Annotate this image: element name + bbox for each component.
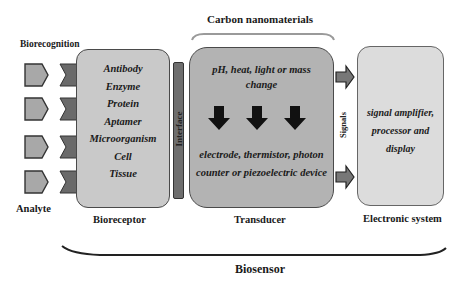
transducer-box: pH, heat, light or mass change electrode… [189, 47, 334, 208]
bioreceptor-item-enzyme: Enzyme [77, 78, 169, 96]
down-arrow-icon [284, 106, 306, 130]
down-arrow-icon [208, 106, 230, 130]
transducer-arrows [190, 106, 333, 132]
top-brace [192, 34, 334, 40]
bioreceptor-list: Antibody Enzyme Protein Aptamer Microorg… [77, 60, 169, 183]
signals-label: Signals [338, 100, 348, 150]
analyte-label: Analyte [16, 203, 51, 214]
bioreceptor-item-tissue: Tissue [77, 165, 169, 183]
transducer-bottom-text: electrode, thermistor, photon counter or… [196, 146, 327, 182]
bioreceptor-item-cell: Cell [77, 148, 169, 166]
electronic-system-text: signal amplifier, processor and display [362, 104, 439, 158]
bioreceptor-box: Antibody Enzyme Protein Aptamer Microorg… [76, 49, 170, 208]
bioreceptor-item-aptamer: Aptamer [77, 113, 169, 131]
analyte-shape-4 [25, 171, 48, 193]
analyte-shapes [25, 64, 48, 193]
bioreceptor-item-protein: Protein [77, 95, 169, 113]
analyte-shape-3 [25, 136, 48, 158]
electronic-system-label: Electronic system [363, 213, 442, 224]
analyte-shape-1 [25, 64, 48, 86]
bottom-brace [62, 246, 446, 255]
down-arrow-icon [246, 106, 268, 130]
signal-arrow-top [336, 66, 354, 88]
bioreceptor-item-microorganism: Microorganism [77, 130, 169, 148]
analyte-shape-2 [25, 98, 48, 120]
interface-label: Interface [174, 99, 184, 159]
signal-arrow-bottom [336, 166, 354, 188]
electronic-system-box: signal amplifier, processor and display [357, 46, 444, 206]
transducer-label: Transducer [234, 214, 286, 225]
bioreceptor-label: Bioreceptor [93, 214, 146, 225]
carbon-nanomaterials-label: Carbon nanomaterials [207, 13, 313, 25]
bioreceptor-item-antibody: Antibody [77, 60, 169, 78]
biosensor-title: Biosensor [235, 262, 285, 277]
transducer-top-text: pH, heat, light or mass change [198, 62, 325, 92]
biorecognition-label: Biorecognition [20, 39, 79, 49]
